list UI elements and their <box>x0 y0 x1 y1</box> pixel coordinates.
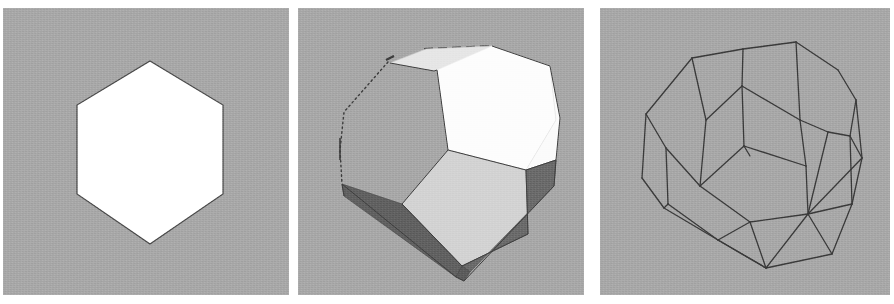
edge-cap-mid-r <box>742 86 800 120</box>
panel-shaded-solid <box>298 8 584 295</box>
upper-left-vertex-tick <box>386 56 394 60</box>
edge-left-rim-lower <box>664 204 668 208</box>
solid-faces-group <box>342 46 560 281</box>
edge-left-lower-seam <box>668 204 718 240</box>
edge-right-rim-seam <box>808 132 828 214</box>
edge-outline-lower-right <box>832 204 852 254</box>
edge-outline-left-mid <box>642 178 664 208</box>
edge-outline-top-left <box>692 49 743 58</box>
edge-hub-vertical <box>742 86 744 146</box>
edge-far-right-lower <box>808 204 852 214</box>
edge-right-mid-vert <box>800 120 806 166</box>
edge-bottom-inner-l <box>718 240 766 268</box>
edge-left-rim-vert <box>666 148 668 204</box>
edge-rim-right-join <box>828 132 850 136</box>
edge-left-mid-vert <box>700 120 706 186</box>
edge-outline-right-upper <box>838 70 856 100</box>
wireframe-canvas <box>600 8 890 295</box>
edge-outline-upper-left <box>646 58 692 114</box>
edge-outline-right-lower <box>852 158 862 204</box>
edge-cap-mid <box>706 86 742 120</box>
edge-left-rim-to-hub <box>666 148 700 186</box>
edge-far-right-mid <box>808 158 862 214</box>
wireframe-edges-group <box>642 42 862 268</box>
figure-root: Three renderings of a truncated octahedr… <box>0 0 894 304</box>
shaded-solid-canvas <box>298 8 584 295</box>
edge-outline-top <box>743 42 796 49</box>
edge-bottom-floor-r <box>808 214 832 254</box>
edge-left-rim-upper <box>646 114 666 148</box>
edge-bottom-floor-l <box>718 222 750 240</box>
edge-outline-left-lower <box>664 208 718 240</box>
edge-cap-down-l <box>692 58 706 120</box>
edge-bottom-left-in <box>700 186 750 222</box>
edge-bottom-mid <box>750 214 808 222</box>
edge-hub-to-left <box>700 146 744 186</box>
edge-bottom-right-in <box>806 166 808 214</box>
edge-rim-right-up <box>850 100 856 136</box>
panel-silhouette <box>3 8 289 295</box>
edge-right-to-rim <box>800 120 828 132</box>
edge-cap-left <box>742 49 743 86</box>
edge-outline-left-upper <box>642 114 646 178</box>
edge-cap-down-r <box>796 42 800 120</box>
panel-wireframe <box>600 8 890 295</box>
edge-bottom-to-floor <box>750 222 766 268</box>
hexagon-silhouette <box>77 61 223 244</box>
silhouette-canvas <box>3 8 289 295</box>
upper-left-silhouette-edge <box>340 62 388 184</box>
edge-outline-top-right <box>796 42 838 70</box>
edge-hub-to-right <box>744 146 806 166</box>
